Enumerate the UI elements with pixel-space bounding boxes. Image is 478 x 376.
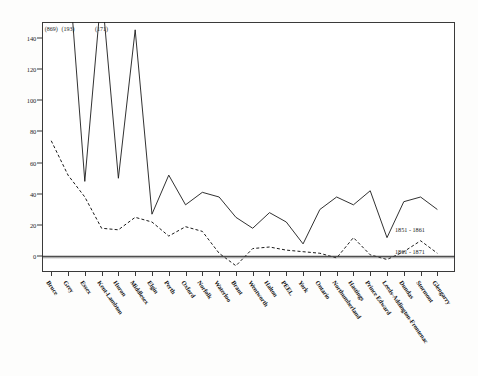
x-axis-tick-mark (353, 272, 354, 276)
y-axis-tick-label: 140 (27, 34, 36, 41)
x-axis-tick-mark (387, 272, 388, 276)
x-axis-tick-mark (118, 272, 119, 276)
x-axis-tick-mark (152, 272, 153, 276)
y-axis-tick-label: 60 (30, 159, 36, 166)
x-axis-tick-label: Essex (79, 279, 93, 295)
series-line-1 (51, 22, 437, 244)
peak-value-annotation: (193) (62, 26, 75, 32)
series-line-2 (51, 141, 437, 266)
y-axis-tick-mark (37, 68, 42, 69)
y-axis-tick-mark (37, 193, 42, 194)
x-axis-tick-mark (102, 272, 103, 276)
peak-value-annotation: (869) (45, 26, 58, 32)
x-axis-tick-mark (253, 272, 254, 276)
x-axis-tick-mark (186, 272, 187, 276)
x-axis-tick-label: Norfolk (197, 279, 215, 300)
x-axis-tick-label: Oxford (180, 279, 197, 299)
y-axis-tick-label: 20 (30, 222, 36, 229)
y-axis-tick-label: 80 (30, 128, 36, 135)
x-axis-tick-label: Glengarry (432, 279, 454, 306)
y-axis-tick-mark (37, 37, 42, 38)
plot-lines (42, 22, 455, 272)
x-axis-tick-mark (370, 272, 371, 276)
x-axis-tick-mark (437, 272, 438, 276)
x-axis-tick-label: PEEL (281, 279, 296, 296)
x-axis-tick-label: Dundas (398, 279, 415, 300)
y-axis-tick-label: 120 (27, 65, 36, 72)
y-axis-tick-label: 100 (27, 97, 36, 104)
x-axis-tick-label: Grey (62, 279, 75, 294)
y-axis: 020406080100120140 (0, 0, 36, 376)
x-axis-tick-mark (135, 272, 136, 276)
x-axis-tick-mark (320, 272, 321, 276)
peak-value-annotation: (171) (95, 26, 108, 32)
x-axis-tick-mark (236, 272, 237, 276)
x-axis-tick-label: Halton (264, 279, 280, 298)
x-axis-tick-label: Elgin (146, 279, 160, 295)
y-axis-tick-label: 0 (33, 253, 36, 260)
x-axis-tick-mark (269, 272, 270, 276)
x-axis-tick-label: Ontario (314, 279, 332, 300)
x-axis-tick-mark (169, 272, 170, 276)
x-axis-tick-mark (404, 272, 405, 276)
x-axis-tick-label: Huron (113, 279, 129, 297)
x-axis-tick-label: York (297, 279, 310, 294)
x-axis-tick-label: Perth (163, 279, 177, 295)
y-axis-tick-mark (37, 131, 42, 132)
x-axis-tick-mark (219, 272, 220, 276)
y-axis-tick-mark (37, 100, 42, 101)
x-axis-tick-label: Bruce (45, 279, 60, 296)
x-axis-tick-mark (337, 272, 338, 276)
x-axis-tick-mark (303, 272, 304, 276)
x-axis-tick-mark (68, 272, 69, 276)
series-legend-label-2: 1861 - 1871 (395, 248, 425, 255)
y-axis-tick-label: 40 (30, 190, 36, 197)
y-axis-tick-mark (37, 225, 42, 226)
x-axis-tick-mark (286, 272, 287, 276)
x-axis-tick-mark (51, 272, 52, 276)
y-axis-tick-mark (37, 162, 42, 163)
x-axis-tick-mark (85, 272, 86, 276)
x-axis-tick-mark (202, 272, 203, 276)
x-axis-tick-mark (421, 272, 422, 276)
chart-figure: 020406080100120140 (869)(193)(171)BruceG… (0, 0, 478, 376)
series-legend-label-1: 1851 - 1861 (395, 226, 425, 233)
x-axis-tick-label: Brant (230, 279, 245, 296)
y-axis-tick-mark (37, 256, 42, 257)
